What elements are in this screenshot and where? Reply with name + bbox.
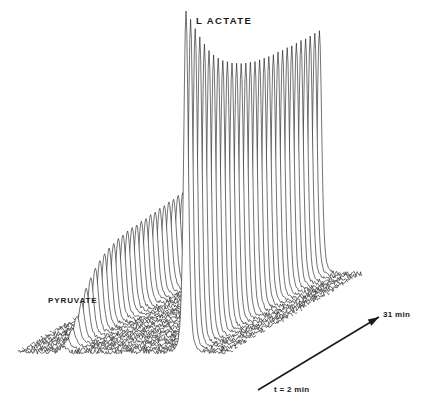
time-axis-arrowhead [368, 317, 379, 326]
time-axis-end-label: 31 min [383, 310, 410, 319]
time-axis-start-label: t = 2 min [274, 385, 309, 394]
stacked-spectra-plot [0, 0, 425, 408]
pyruvate-peak-label: PYRUVATE [48, 296, 98, 305]
nmr-stacked-plot-figure: L ACTATE PYRUVATE 31 min t = 2 min [0, 0, 425, 408]
lactate-peak-label: L ACTATE [196, 15, 252, 26]
spectra-traces [18, 11, 361, 408]
